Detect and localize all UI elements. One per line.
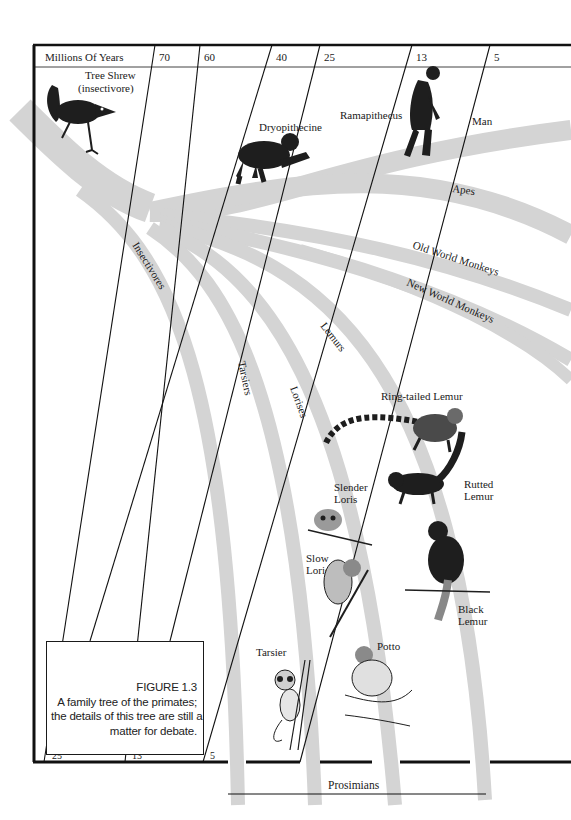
dryopithecine-icon [236,133,310,184]
label-black-lemur-1: Black [458,603,484,615]
primate-family-tree-figure: Millions Of Years 70 60 40 25 13 5 25 13… [0,0,571,820]
label-slow-loris-1: Slow [306,552,329,564]
label-rutted-lemur-2: Lemur [464,490,494,502]
figure-caption-box: FIGURE 1.3 A family tree of the primates… [46,641,204,755]
caption-line-3: matter for debate. [51,724,197,739]
figure-number: FIGURE 1.3 [51,680,197,695]
label-tarsier: Tarsier [256,646,287,658]
tick-60: 60 [204,51,216,63]
label-rutted-lemur-1: Rutted [464,478,494,490]
label-ring-tailed-lemur: Ring-tailed Lemur [381,390,463,402]
label-potto: Potto [377,640,401,652]
tick-70: 70 [159,51,171,63]
timeline-header: Millions Of Years 70 60 40 25 13 5 [45,51,500,63]
label-dryopithecine: Dryopithecine [259,121,322,133]
tick-5: 5 [494,51,500,63]
caption-line-1: A family tree of the primates; [51,695,197,710]
label-tree-shrew-sub: (insectivore) [78,82,134,95]
label-prosimians: Prosimians [328,779,380,791]
label-man: Man [472,115,493,127]
label-insectivores: Insectivores [130,240,168,291]
caption-line-2: the details of this tree are still a [51,709,197,724]
label-black-lemur-2: Lemur [458,615,488,627]
tick-40: 40 [276,51,288,63]
label-ramapithecus: Ramapithecus [340,109,402,121]
bottom-tick-5: 5 [210,750,215,761]
ring-tailed-lemur-icon [325,408,463,452]
tick-13: 13 [416,51,428,63]
label-slender-loris-1: Slender [334,481,368,493]
label-tree-shrew: Tree Shrew [85,69,136,81]
header-label: Millions Of Years [45,51,124,63]
label-slender-loris-2: Loris [334,493,357,505]
tick-25: 25 [324,51,336,63]
